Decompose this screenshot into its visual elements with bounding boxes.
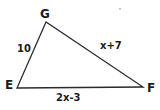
triangle-outline bbox=[17, 22, 143, 88]
vertex-label-e: E bbox=[5, 79, 13, 91]
vertex-label-f: F bbox=[147, 82, 155, 94]
vertex-label-g: G bbox=[40, 8, 50, 20]
geometry-diagram: G E F 10 x+7 2x-3 bbox=[0, 0, 160, 110]
side-label-eg: 10 bbox=[17, 44, 31, 54]
scan-speck-dot bbox=[119, 8, 121, 10]
side-label-gf: x+7 bbox=[100, 41, 122, 51]
side-label-ef: 2x-3 bbox=[56, 93, 81, 103]
